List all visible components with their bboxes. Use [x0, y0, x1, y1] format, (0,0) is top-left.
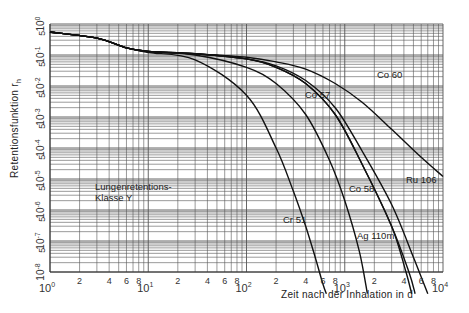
svg-text:10-2: 10-2 — [34, 77, 46, 94]
x-tick-label: 4 — [303, 276, 308, 286]
x-tick-label: 4 — [205, 276, 210, 286]
svg-text:10-5: 10-5 — [34, 170, 46, 187]
y-tick-label: 10-6 — [34, 201, 46, 218]
x-tick-label: 104 — [432, 281, 448, 294]
x-tick-label: 6 — [124, 276, 129, 286]
svg-text:Retentionsfunktion rh: Retentionsfunktion rh — [9, 79, 22, 178]
y-tick-label: 5 — [37, 217, 47, 222]
svg-text:5: 5 — [37, 248, 47, 253]
svg-text:10-4: 10-4 — [34, 139, 46, 156]
y-tick-label: 10-7 — [34, 232, 46, 249]
svg-text:5: 5 — [37, 31, 47, 36]
x-tick-label: 4 — [401, 276, 406, 286]
label-cr51: Cr 51 — [283, 214, 306, 225]
y-tick-label: 5 — [37, 31, 47, 36]
label-co60: Co 60 — [377, 69, 402, 80]
y-tick-label: 10-1 — [34, 46, 46, 63]
y-tick-label: 5 — [37, 248, 47, 253]
svg-text:5: 5 — [37, 124, 47, 129]
svg-text:10-8: 10-8 — [34, 263, 46, 280]
svg-text:10-3: 10-3 — [34, 108, 46, 125]
svg-text:5: 5 — [37, 62, 47, 67]
x-tick-label: 6 — [222, 276, 227, 286]
x-tick-label: 2 — [77, 276, 82, 286]
y-tick-label: 10-8 — [34, 263, 46, 280]
svg-text:5: 5 — [37, 93, 47, 98]
svg-text:100: 100 — [34, 16, 46, 31]
annotation-line1: Lungenretentions- — [95, 181, 172, 192]
x-tick-label: 4 — [107, 276, 112, 286]
y-tick-label: 5 — [37, 62, 47, 67]
x-tick-label: 102 — [235, 281, 251, 294]
y-tick-label: 5 — [37, 155, 47, 160]
annotation-line2: Klasse Y — [95, 192, 133, 203]
y-tick-label: 5 — [37, 93, 47, 98]
label-co58: Co 58 — [349, 183, 374, 194]
svg-text:10-1: 10-1 — [34, 46, 46, 63]
svg-text:5: 5 — [37, 186, 47, 191]
y-tick-label: 10-3 — [34, 108, 46, 125]
y-tick-label: 100 — [34, 16, 46, 31]
y-axis-label: Retentionsfunktion rh — [9, 79, 22, 178]
label-ag110m: Ag 110m — [357, 230, 394, 241]
svg-text:10-6: 10-6 — [34, 201, 46, 218]
y-tick-label: 10-2 — [34, 77, 46, 94]
retention-chart: 1002468101246810224681032468104100510-15… — [0, 0, 469, 313]
label-ru106: Ru 106 — [406, 174, 437, 185]
x-tick-label: 101 — [137, 281, 153, 294]
svg-text:5: 5 — [37, 155, 47, 160]
y-axis-label-main: Retentionsfunktion r — [9, 83, 20, 178]
y-tick-label: 10-5 — [34, 170, 46, 187]
x-tick-label: 2 — [274, 276, 279, 286]
label-co57: Co 57 — [305, 89, 330, 100]
x-tick-label: 100 — [39, 281, 55, 294]
x-tick-label: 6 — [419, 276, 424, 286]
y-tick-label: 5 — [37, 124, 47, 129]
svg-text:10-7: 10-7 — [34, 232, 46, 249]
x-axis-label: Zeit nach der Inhalation in d — [281, 289, 413, 300]
y-tick-label: 5 — [37, 186, 47, 191]
x-tick-label: 2 — [372, 276, 377, 286]
y-axis-label-sub: h — [15, 79, 22, 83]
x-tick-label: 2 — [175, 276, 180, 286]
svg-text:5: 5 — [37, 217, 47, 222]
y-tick-label: 10-4 — [34, 139, 46, 156]
x-tick-label: 6 — [320, 276, 325, 286]
